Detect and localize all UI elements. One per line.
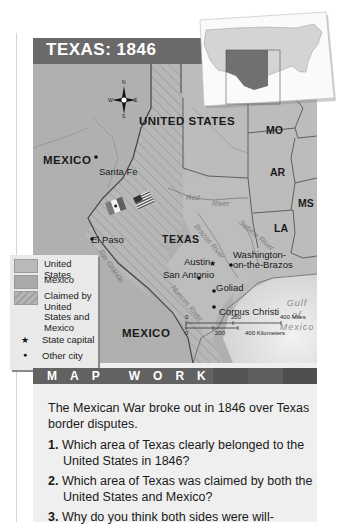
legend-label-claimed: Claimed by United States and Mexico bbox=[44, 291, 96, 333]
compass-n: N bbox=[122, 79, 126, 85]
question-2-text: Which area of Texas was claimed by both … bbox=[62, 474, 313, 504]
legend-item-mexico: Mexico bbox=[14, 275, 74, 289]
label-city-corpus-christi: Corpus Christi bbox=[219, 306, 279, 317]
label-mexico-north: MEXICO bbox=[43, 154, 91, 166]
scale-miles-0: 0 bbox=[185, 314, 188, 320]
label-mexico-south: MEXICO bbox=[122, 327, 170, 339]
label-city-goliad: Goliad bbox=[216, 282, 243, 293]
label-state-mo: MO bbox=[266, 124, 283, 136]
legend-label-state-capital: State capital bbox=[42, 335, 94, 346]
question-2-number: 2. bbox=[48, 474, 58, 488]
question-3: 3. Why do you think both sides were will… bbox=[48, 510, 325, 526]
legend-item-claimed: Claimed by United States and Mexico bbox=[14, 291, 96, 333]
label-city-san-antonio: San Antonio bbox=[163, 269, 214, 280]
question-3-text: Why do you think both sides were will- bbox=[62, 510, 274, 524]
inset-us-locator-map bbox=[196, 10, 336, 108]
legend-item-other-city: ● Other city bbox=[14, 351, 83, 362]
legend-swatch-united-states bbox=[14, 259, 38, 273]
legend-label-other-city: Other city bbox=[42, 351, 83, 362]
scale-km-200: 200 bbox=[215, 330, 225, 336]
scale-miles-200: 200 bbox=[231, 314, 241, 320]
star-icon: ★ bbox=[14, 335, 36, 345]
map-legend: United States Mexico Claimed by United S… bbox=[10, 255, 98, 370]
scale-km-400: 400 Kilometers bbox=[245, 330, 285, 336]
compass-s: S bbox=[122, 113, 125, 119]
legend-swatch-claimed bbox=[14, 291, 38, 305]
label-state-ar: AR bbox=[270, 166, 285, 178]
scale-miles-400: 400 Miles bbox=[280, 314, 306, 320]
gulf-line-1: Gulf bbox=[277, 297, 317, 309]
question-2: 2. Which area of Texas was claimed by bo… bbox=[48, 474, 325, 505]
label-united-states: UNITED STATES bbox=[139, 115, 235, 127]
question-1: 1. Which area of Texas clearly belonged … bbox=[48, 438, 325, 469]
label-red-river-2: River bbox=[212, 199, 230, 208]
dot-icon: ● bbox=[14, 351, 36, 358]
label-texas: TEXAS bbox=[162, 233, 200, 245]
label-state-ms: MS bbox=[298, 197, 314, 209]
legend-item-state-capital: ★ State capital bbox=[14, 335, 94, 346]
legend-swatch-mexico bbox=[14, 275, 38, 289]
scale-km-0: 0 bbox=[185, 330, 188, 336]
label-state-la: LA bbox=[274, 222, 288, 234]
label-city-washington-2: on-the-Brazos bbox=[233, 259, 293, 270]
map-work-intro: The Mexican War broke out in 1846 over T… bbox=[48, 401, 310, 432]
compass-e: E bbox=[134, 97, 137, 103]
label-city-santa-fe: Santa Fe bbox=[99, 166, 138, 177]
map-title: TEXAS: 1846 bbox=[46, 40, 156, 60]
question-1-text: Which area of Texas clearly belonged to … bbox=[62, 438, 304, 468]
question-3-number: 3. bbox=[48, 510, 58, 524]
legend-label-mexico: Mexico bbox=[44, 275, 74, 286]
label-red-river-1: Red bbox=[186, 193, 200, 202]
label-city-el-paso: El Paso bbox=[91, 234, 124, 245]
question-1-number: 1. bbox=[48, 438, 58, 452]
label-city-austin: Austin bbox=[184, 256, 210, 267]
map-work-heading: MAP WORK bbox=[47, 368, 219, 384]
compass-w: W bbox=[108, 97, 113, 103]
